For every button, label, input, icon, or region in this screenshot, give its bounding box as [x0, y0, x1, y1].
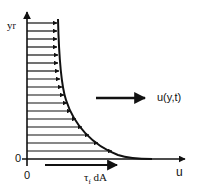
profile-label: u(y,t) — [157, 92, 181, 103]
y-axis-label: yr — [7, 20, 16, 31]
velocity-profile-curve — [58, 19, 152, 159]
origin-x-label: 0 — [24, 170, 30, 181]
u-axis-label: u — [176, 166, 183, 178]
origin-y-label: 0 — [15, 153, 21, 164]
velocity-vectors — [27, 23, 112, 151]
shear-force-label: τf dA — [84, 172, 107, 186]
